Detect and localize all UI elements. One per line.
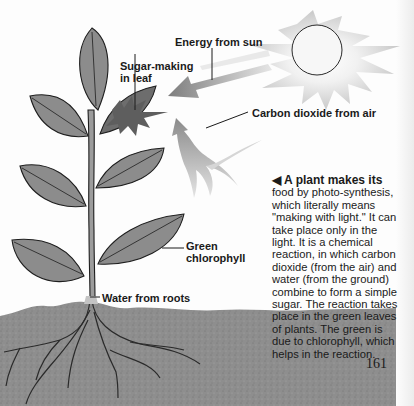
- caption: ◀ A plant makes its food by photo-synthe…: [272, 174, 402, 360]
- co2-arrow: [172, 118, 262, 198]
- leaf-lower-left: [12, 239, 84, 281]
- caption-body: food by photo-synthesis, which literally…: [272, 186, 397, 359]
- label-green-chlorophyll: Green chlorophyll: [186, 240, 245, 264]
- plant-stem: [88, 110, 95, 300]
- label-green-line2: chlorophyll: [186, 252, 245, 264]
- label-sugar-making: Sugar-making in leaf: [120, 60, 193, 84]
- label-water-from-roots: Water from roots: [102, 292, 190, 304]
- sun-icon: [246, 10, 400, 110]
- label-carbon-dioxide: Carbon dioxide from air: [252, 107, 376, 119]
- label-energy-from-sun: Energy from sun: [175, 36, 262, 48]
- book-page: Energy from sun Sugar-making in leaf Car…: [0, 0, 414, 406]
- label-sugar-line1: Sugar-making: [120, 60, 193, 72]
- label-green-line1: Green: [186, 240, 245, 252]
- label-sugar-line2: in leaf: [120, 72, 193, 84]
- page-number: 161: [366, 356, 387, 372]
- caption-lead: A plant makes its: [284, 173, 382, 187]
- caption-arrow-icon: ◀: [272, 173, 281, 187]
